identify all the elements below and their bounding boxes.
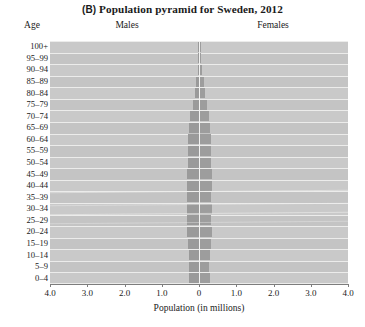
chart-title: (B) Population pyramid for Sweden, 2012 xyxy=(0,3,365,15)
x-axis-tick-label: 4.0 xyxy=(333,288,363,298)
bar-males-60-64 xyxy=(188,134,199,144)
y-axis-tick-label: 90–94 xyxy=(8,65,48,74)
bar-females-95-99 xyxy=(200,53,201,63)
y-axis-tick-label: 30–34 xyxy=(8,204,48,213)
y-axis-labels: 100+95–9990–9485–8980–8475–7970–7465–696… xyxy=(8,41,48,284)
bar-females-100+ xyxy=(200,42,201,52)
bar-males-35-39 xyxy=(187,192,199,202)
bar-females-20-24 xyxy=(200,227,212,237)
x-axis-tick-label: 2.0 xyxy=(259,288,289,298)
bar-females-40-44 xyxy=(200,181,212,191)
bar-females-90-94 xyxy=(200,65,202,75)
bar-females-5-9 xyxy=(200,262,209,272)
bar-females-65-69 xyxy=(200,123,210,133)
bar-females-10-14 xyxy=(200,250,210,260)
bar-females-50-54 xyxy=(200,158,211,168)
y-axis-tick-label: 80–84 xyxy=(8,89,48,98)
y-axis-tick-label: 35–39 xyxy=(8,193,48,202)
males-column-header: Males xyxy=(72,20,182,30)
x-axis-tick xyxy=(311,284,312,287)
y-axis-tick-label: 40–44 xyxy=(8,181,48,190)
bar-males-65-69 xyxy=(189,123,199,133)
bar-males-0-4 xyxy=(189,273,199,283)
x-axis-tick xyxy=(87,284,88,287)
y-axis-tick-label: 95–99 xyxy=(8,54,48,63)
bar-females-55-59 xyxy=(200,146,211,156)
y-axis-tick-label: 55–59 xyxy=(8,146,48,155)
y-axis-tick-label: 85–89 xyxy=(8,77,48,86)
bar-males-45-49 xyxy=(187,169,199,179)
y-axis-tick-label: 5–9 xyxy=(8,262,48,271)
y-axis-tick-label: 60–64 xyxy=(8,135,48,144)
zero-axis-line xyxy=(199,41,200,284)
x-axis-tick xyxy=(125,284,126,287)
bar-females-35-39 xyxy=(200,192,211,202)
bar-males-70-74 xyxy=(190,111,199,121)
y-axis-tick-label: 25–29 xyxy=(8,216,48,225)
bar-males-5-9 xyxy=(189,262,199,272)
x-axis-tick xyxy=(50,284,51,287)
x-axis-tick-label: 3.0 xyxy=(72,288,102,298)
y-axis-tick-label: 0–4 xyxy=(8,274,48,283)
x-axis-title: Population (in millions) xyxy=(50,303,348,313)
y-axis-tick-label: 15–19 xyxy=(8,239,48,248)
bar-females-0-4 xyxy=(200,273,210,283)
chart-title-text: Population pyramid for Sweden, 2012 xyxy=(99,3,283,15)
bar-males-55-59 xyxy=(188,146,199,156)
y-axis-tick-label: 50–54 xyxy=(8,158,48,167)
bar-females-80-84 xyxy=(200,88,205,98)
y-axis-tick-label: 20–24 xyxy=(8,227,48,236)
bar-males-50-54 xyxy=(188,158,199,168)
x-axis-tick-label: 1.0 xyxy=(221,288,251,298)
plot-area xyxy=(50,41,348,284)
y-axis-tick-label: 75–79 xyxy=(8,100,48,109)
bar-males-10-14 xyxy=(189,250,199,260)
x-axis-tick xyxy=(162,284,163,287)
bar-females-75-79 xyxy=(200,100,207,110)
y-axis-tick-label: 100+ xyxy=(8,42,48,51)
females-column-header: Females xyxy=(218,20,328,30)
bar-males-15-19 xyxy=(188,239,199,249)
panel-tag: (B) xyxy=(82,4,96,15)
age-column-header: Age xyxy=(13,20,51,30)
bar-females-15-19 xyxy=(200,239,211,249)
bar-males-25-29 xyxy=(187,215,199,225)
bar-males-40-44 xyxy=(187,181,199,191)
bar-females-30-34 xyxy=(200,204,212,214)
x-axis-tick xyxy=(348,284,349,287)
bar-females-45-49 xyxy=(200,169,212,179)
y-axis-tick-label: 10–14 xyxy=(8,251,48,260)
bar-males-30-34 xyxy=(187,204,199,214)
x-axis-tick-label: 2.0 xyxy=(110,288,140,298)
y-axis-tick-label: 45–49 xyxy=(8,170,48,179)
x-axis-tick xyxy=(274,284,275,287)
bar-females-85-89 xyxy=(200,77,204,87)
x-axis-tick-label: 1.0 xyxy=(147,288,177,298)
x-axis-tick-label: 0 xyxy=(184,288,214,298)
bar-females-60-64 xyxy=(200,134,211,144)
x-axis-tick xyxy=(199,284,200,287)
y-axis-tick-label: 70–74 xyxy=(8,112,48,121)
population-pyramid-figure: (B) Population pyramid for Sweden, 2012 … xyxy=(0,0,365,327)
bar-females-25-29 xyxy=(200,215,211,225)
y-axis-tick-label: 65–69 xyxy=(8,123,48,132)
x-axis-tick xyxy=(236,284,237,287)
x-axis-tick-label: 3.0 xyxy=(296,288,326,298)
bar-females-70-74 xyxy=(200,111,209,121)
x-axis-tick-label: 4.0 xyxy=(35,288,65,298)
bar-males-20-24 xyxy=(187,227,199,237)
